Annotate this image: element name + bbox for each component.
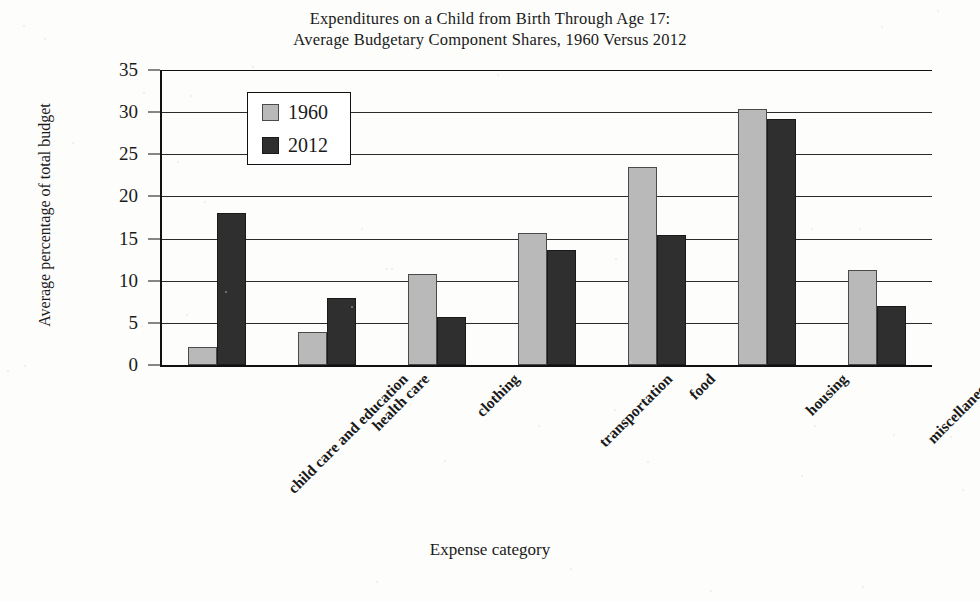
- scan-speckle: [186, 314, 188, 316]
- bar-1960-clothing: [408, 274, 437, 365]
- chart-title: Expenditures on a Child from Birth Throu…: [0, 8, 980, 50]
- x-tick-label-clothing: clothing: [473, 370, 523, 420]
- scan-speckle: [962, 489, 964, 491]
- scan-speckle: [570, 568, 572, 570]
- legend-label-2012: 2012: [288, 135, 328, 155]
- legend-item-2012: 2012: [262, 135, 328, 155]
- bar-2012-health-care: [327, 298, 356, 365]
- bar-2012-housing: [767, 119, 796, 365]
- y-tick-mark-0: [148, 365, 160, 366]
- scan-speckle: [538, 425, 540, 427]
- bar-group: [712, 70, 822, 365]
- y-tick-mark-25: [148, 154, 160, 155]
- chart-figure: Expenditures on a Child from Birth Throu…: [0, 0, 980, 602]
- scan-speckle: [664, 38, 666, 40]
- y-tick-label-20: 20: [119, 185, 138, 207]
- scan-speckle: [141, 325, 143, 327]
- y-tick-mark-20: [148, 196, 160, 197]
- bar-1960-food: [628, 167, 657, 365]
- scan-speckle: [376, 581, 378, 583]
- legend-item-1960: 1960: [262, 102, 328, 122]
- scan-speckle: [252, 66, 254, 68]
- y-tick-mark-5: [148, 322, 160, 323]
- y-tick-mark-10: [148, 280, 160, 281]
- scan-speckle: [615, 258, 617, 260]
- scan-speckle: [43, 290, 45, 292]
- scan-speckle: [630, 361, 632, 363]
- scan-speckle: [811, 228, 813, 230]
- bar-2012-child-care-and-education: [217, 213, 246, 365]
- y-tick-mark-15: [148, 238, 160, 239]
- y-tick-label-15: 15: [119, 228, 138, 250]
- bar-2012-miscellaneous: [877, 306, 906, 365]
- scan-speckle: [409, 404, 411, 406]
- x-tick-label-miscellaneous: miscellaneous: [924, 370, 980, 447]
- bar-2012-transportation: [547, 250, 576, 365]
- scan-speckle: [24, 365, 26, 367]
- bar-group: [382, 70, 492, 365]
- scan-speckle: [710, 590, 712, 592]
- scan-speckle: [204, 201, 206, 203]
- plot-area: 1960 2012: [160, 70, 932, 367]
- y-tick-label-25: 25: [119, 143, 138, 165]
- bar-group: [822, 70, 932, 365]
- bar-1960-miscellaneous: [848, 270, 877, 365]
- y-tick-label-0: 0: [129, 354, 139, 376]
- y-tick-label-30: 30: [119, 101, 138, 123]
- scan-speckle: [937, 10, 939, 12]
- scan-speckle: [143, 92, 145, 94]
- bar-2012-clothing: [437, 317, 466, 365]
- y-tick-mark-30: [148, 112, 160, 113]
- chart-title-line-2: Average Budgetary Component Shares, 1960…: [0, 29, 980, 50]
- y-tick-label-35: 35: [119, 59, 138, 81]
- scan-speckle: [386, 268, 388, 270]
- y-tick-label-5: 5: [129, 312, 139, 334]
- y-axis-tick-labels: 05101520253035: [0, 70, 160, 365]
- scan-speckle: [814, 425, 816, 427]
- bar-1960-transportation: [518, 233, 547, 365]
- bar-1960-child-care-and-education: [188, 347, 217, 365]
- x-axis-category-labels: child care and educationhealth carecloth…: [160, 370, 930, 520]
- legend-swatch-icon-1960: [262, 104, 279, 121]
- x-tick-label-child-care-and-education: child care and education: [284, 370, 411, 497]
- scan-speckle: [444, 460, 446, 462]
- bar-group: [492, 70, 602, 365]
- scan-speckle: [862, 586, 864, 588]
- bar-group: [602, 70, 712, 365]
- chart-title-line-1: Expenditures on a Child from Birth Throu…: [0, 8, 980, 29]
- bar-1960-health-care: [298, 332, 327, 365]
- x-tick-label-transportation: transportation: [595, 370, 676, 451]
- scan-speckle: [7, 370, 9, 372]
- x-tick-label-food: food: [686, 370, 719, 403]
- scan-speckle: [647, 461, 649, 463]
- legend: 1960 2012: [247, 92, 351, 165]
- x-axis-title: Expense category: [0, 540, 980, 560]
- bar-2012-food: [657, 235, 686, 365]
- bar-1960-housing: [738, 109, 767, 365]
- scan-speckle: [614, 409, 616, 411]
- legend-swatch-icon-2012: [262, 137, 279, 154]
- scan-speckle: [23, 25, 25, 27]
- legend-label-1960: 1960: [288, 102, 328, 122]
- scan-speckle: [950, 436, 952, 438]
- scan-speckle: [72, 142, 74, 144]
- y-tick-mark-35: [148, 70, 160, 71]
- x-tick-label-housing: housing: [802, 370, 851, 419]
- y-tick-label-10: 10: [119, 270, 138, 292]
